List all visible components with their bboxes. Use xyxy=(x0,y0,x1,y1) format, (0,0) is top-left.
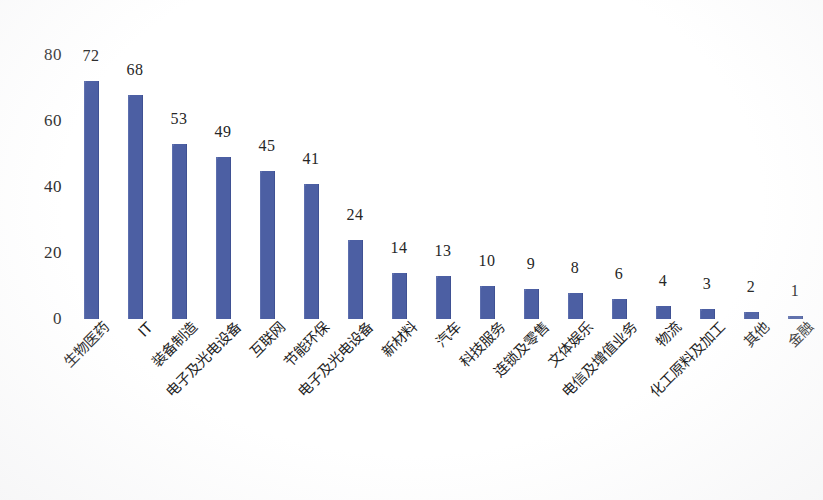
bar[interactable] xyxy=(128,95,143,319)
bar-value-label: 4 xyxy=(641,272,685,290)
bar-value-label: 10 xyxy=(465,252,509,270)
bar[interactable] xyxy=(480,286,495,319)
bar[interactable] xyxy=(216,157,231,319)
bar[interactable] xyxy=(524,289,539,319)
bar-value-label: 2 xyxy=(729,278,773,296)
bar-chart: 020406080 72生物医药68IT53装备制造49电子及光电设备45互联网… xyxy=(0,0,823,500)
bar[interactable] xyxy=(700,309,715,319)
bar-value-label: 68 xyxy=(113,61,157,79)
bar[interactable] xyxy=(656,306,671,319)
bar-value-label: 53 xyxy=(157,110,201,128)
bar-value-label: 49 xyxy=(201,123,245,141)
x-axis-category-label: 其他 xyxy=(741,320,772,351)
bar[interactable] xyxy=(788,316,803,319)
x-axis-category-label: 物流 xyxy=(653,320,684,351)
bar[interactable] xyxy=(744,312,759,319)
bar[interactable] xyxy=(568,293,583,319)
y-axis-tick-label: 20 xyxy=(22,243,62,263)
bar-value-label: 1 xyxy=(773,282,817,300)
bar[interactable] xyxy=(84,81,99,319)
x-axis-category-label: 生物医药 xyxy=(61,320,111,370)
x-axis-category-label: 金融 xyxy=(785,320,816,351)
bar-value-label: 3 xyxy=(685,275,729,293)
bar-value-label: 72 xyxy=(69,47,113,65)
y-axis-tick-label: 0 xyxy=(22,309,62,329)
x-axis-category-label: 互联网 xyxy=(247,320,287,360)
bar-value-label: 8 xyxy=(553,259,597,277)
bar-value-label: 24 xyxy=(333,206,377,224)
y-axis-tick-label: 80 xyxy=(22,45,62,65)
bar-value-label: 13 xyxy=(421,242,465,260)
bar[interactable] xyxy=(436,276,451,319)
bar[interactable] xyxy=(304,184,319,319)
bar[interactable] xyxy=(392,273,407,319)
x-axis-category-label: 新材料 xyxy=(379,320,419,360)
bar-value-label: 14 xyxy=(377,239,421,257)
bar[interactable] xyxy=(172,144,187,319)
bar-value-label: 9 xyxy=(509,255,553,273)
bar-value-label: 45 xyxy=(245,137,289,155)
y-axis-tick-label: 60 xyxy=(22,111,62,131)
x-axis-category-label: 汽车 xyxy=(433,320,464,351)
plot-area: 72生物医药68IT53装备制造49电子及光电设备45互联网41节能环保24电子… xyxy=(62,0,823,500)
bar[interactable] xyxy=(612,299,627,319)
y-axis: 020406080 xyxy=(18,0,62,500)
bar-value-label: 41 xyxy=(289,150,333,168)
x-axis-category-label: IT xyxy=(136,320,156,340)
y-axis-tick-label: 40 xyxy=(22,177,62,197)
bar[interactable] xyxy=(260,171,275,320)
bar[interactable] xyxy=(348,240,363,319)
bar-value-label: 6 xyxy=(597,265,641,283)
